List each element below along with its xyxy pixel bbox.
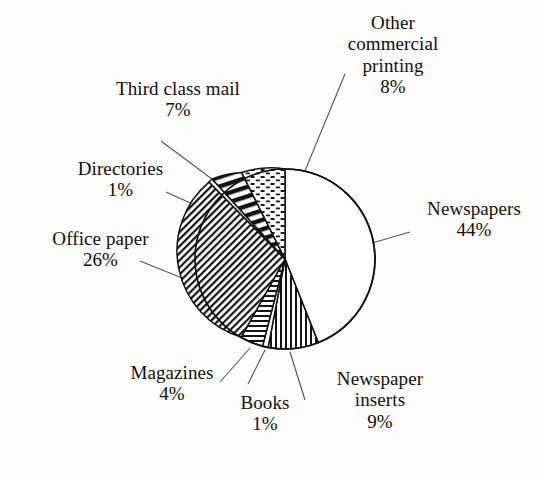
pie-label-other-commercial-printing-line2: commercial — [318, 33, 468, 54]
pie-label-third-class-mail-line1: Third class mail — [78, 78, 278, 99]
pie-label-third-class-mail: Third class mail 7% — [78, 78, 278, 121]
pie-label-newspaper-inserts-line1: Newspaper — [300, 368, 460, 389]
pie-label-newspaper-inserts: Newspaper inserts 9% — [300, 368, 460, 432]
pie-label-directories: Directories 1% — [38, 158, 203, 201]
pie-label-magazines-line1: Magazines — [92, 362, 252, 383]
pie-chart-figure: Other commercial printing 8% Third class… — [0, 0, 543, 477]
pie-label-newspapers-percent: 44% — [404, 219, 543, 240]
pie-label-other-commercial-printing: Other commercial printing 8% — [318, 12, 468, 98]
pie-label-newspapers: Newspapers 44% — [404, 198, 543, 241]
pie-label-office-paper-percent: 26% — [8, 249, 193, 270]
pie-label-newspaper-inserts-percent: 9% — [300, 411, 460, 432]
pie-label-other-commercial-printing-percent: 8% — [318, 76, 468, 97]
pie-label-office-paper: Office paper 26% — [8, 228, 193, 271]
pie-label-newspaper-inserts-line2: inserts — [300, 389, 460, 410]
pie-label-third-class-mail-percent: 7% — [78, 99, 278, 120]
pie-label-directories-line1: Directories — [38, 158, 203, 179]
pie-slices — [177, 168, 375, 349]
pie-label-office-paper-line1: Office paper — [8, 228, 193, 249]
pie-label-directories-percent: 1% — [38, 179, 203, 200]
pie-label-other-commercial-printing-line3: printing — [318, 55, 468, 76]
pie-label-newspapers-line1: Newspapers — [404, 198, 543, 219]
pie-label-other-commercial-printing-line1: Other — [318, 12, 468, 33]
